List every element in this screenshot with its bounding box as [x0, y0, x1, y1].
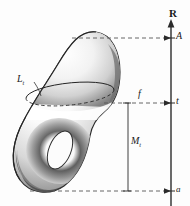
axis-layer: [0, 0, 190, 206]
axis-arrowhead-icon: [168, 19, 175, 28]
label-top-critical-value: A: [176, 31, 182, 41]
label-function-f: f: [138, 89, 141, 99]
label-bottom-critical-value: a: [176, 185, 181, 194]
real-line-axis: [168, 19, 175, 206]
morse-theory-figure: R A t a f Mt Lt: [0, 0, 190, 206]
label-sublevel-set: Mt: [131, 136, 141, 148]
label-level-value: t: [176, 96, 179, 106]
sublevel-extent-bracket: [123, 103, 131, 191]
level-set-subscript: t: [23, 79, 25, 86]
sublevel-set-subscript: t: [139, 141, 141, 148]
label-level-set: Lt: [17, 74, 24, 86]
axis-label-R: R: [169, 8, 177, 19]
